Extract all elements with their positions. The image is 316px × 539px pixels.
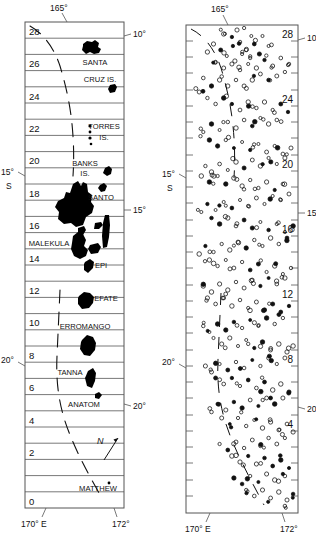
epicenter-marker <box>230 62 234 66</box>
island-label-tanna: TANNA <box>57 368 83 377</box>
epicenter-marker <box>214 102 218 106</box>
epicenter-marker <box>252 321 256 325</box>
epicenter-marker <box>250 124 254 128</box>
epicenter-marker <box>277 242 281 246</box>
epicenter-marker <box>230 35 233 38</box>
epicenter-marker <box>238 384 241 387</box>
epicenter-marker <box>267 436 271 440</box>
epicenter-marker <box>265 472 269 476</box>
right-row-label-8: 8 <box>287 354 293 365</box>
epicenter-marker <box>261 244 264 247</box>
epicenter-marker <box>277 313 281 317</box>
epicenter-marker <box>283 436 286 439</box>
epicenter-marker <box>268 197 273 202</box>
epicenter-marker <box>240 482 244 486</box>
epicenter-marker <box>194 87 198 91</box>
epicenter-marker <box>218 442 221 445</box>
epicenter-marker <box>286 110 289 113</box>
island-label-santo: SANTO <box>88 193 114 202</box>
island-label-anatom: ANATOM <box>68 400 100 409</box>
row-label-6: 6 <box>29 382 34 393</box>
island-torres-4 <box>90 143 93 146</box>
epicenter-marker <box>242 26 245 29</box>
epicenter-marker <box>247 342 250 345</box>
epicenter-marker <box>250 226 254 230</box>
right-row-label-24: 24 <box>282 94 294 105</box>
epicenter-marker <box>211 261 216 266</box>
epicenter-marker <box>271 464 275 468</box>
epicenter-marker <box>215 322 220 327</box>
island-torres-3 <box>88 136 91 139</box>
epicenter-marker <box>261 308 265 312</box>
epicenter-marker <box>242 286 246 290</box>
row-label-8: 8 <box>29 350 34 361</box>
epicenter-marker <box>247 454 250 457</box>
epicenter-marker <box>269 160 273 164</box>
epicenter-marker <box>197 252 202 257</box>
epicenter-marker <box>260 376 263 379</box>
epicenter-marker <box>254 196 258 200</box>
epicenter-marker <box>213 361 217 365</box>
epicenter-marker <box>224 204 227 207</box>
epicenter-marker <box>207 138 211 142</box>
left-axis-right-mid-label: 15° <box>133 205 146 215</box>
epicenter-marker <box>196 208 199 211</box>
epicenter-marker <box>235 28 239 32</box>
epicenter-marker <box>228 423 231 426</box>
epicenter-marker <box>283 356 287 360</box>
epicenter-marker <box>265 54 268 57</box>
epicenter-marker <box>264 316 269 321</box>
epicenter-marker <box>203 260 206 263</box>
island-tinakula <box>108 84 117 93</box>
epicenter-marker <box>257 52 261 56</box>
epicenter-marker <box>275 362 278 365</box>
epicenter-marker <box>268 236 273 241</box>
right-row-label-4: 4 <box>287 419 293 430</box>
epicenter-marker <box>235 382 238 385</box>
epicenter-marker <box>259 462 263 466</box>
right-panel-svg: 165° 170° E 172° 10° 15° 20° 15° S 20° 2… <box>160 0 316 539</box>
epicenter-marker <box>228 267 232 271</box>
epicenter-marker <box>222 200 225 203</box>
epicenter-marker <box>226 368 230 372</box>
row-label-20: 20 <box>29 155 40 166</box>
epicenter-marker <box>212 182 215 185</box>
epicenter-marker <box>231 44 234 47</box>
epicenter-marker <box>244 424 247 427</box>
epicenter-marker <box>244 246 248 250</box>
epicenter-marker <box>218 128 221 131</box>
island-pentecost <box>102 215 110 248</box>
epicenter-marker <box>238 108 242 112</box>
epicenter-marker <box>212 250 215 253</box>
epicenter-marker <box>224 258 227 261</box>
epicenter-marker <box>275 146 280 151</box>
epicenter-marker <box>281 396 285 400</box>
epicenter-marker <box>214 208 217 211</box>
epicenter-marker <box>255 386 259 390</box>
epicenter-marker <box>201 282 205 286</box>
epicenter-marker <box>278 454 282 458</box>
epicenter-marker <box>274 262 278 266</box>
epicenter-marker <box>266 122 270 126</box>
epicenter-marker <box>265 270 268 273</box>
epicenter-marker <box>218 162 222 166</box>
epicenter-marker <box>230 304 234 308</box>
epicenter-marker <box>218 204 221 207</box>
epicenter-marker <box>270 388 275 393</box>
epicenter-marker <box>253 238 256 241</box>
island-label-efate: EFATE <box>94 294 118 303</box>
epicenter-marker <box>206 329 209 332</box>
row-label-4: 4 <box>29 415 34 426</box>
epicenter-marker <box>262 118 266 122</box>
epicenter-marker <box>236 416 239 419</box>
epicenter-marker <box>226 288 230 292</box>
right-row-label-20: 20 <box>282 159 294 170</box>
epicenter-marker <box>287 466 290 469</box>
epicenter-marker <box>262 446 265 449</box>
epicenter-marker <box>258 72 262 76</box>
epicenter-marker <box>251 358 254 361</box>
epicenter-marker <box>240 411 243 414</box>
epicenter-marker <box>216 264 219 267</box>
island-name-labels: SANTA CRUZ IS. TORRES IS. BANKS IS. SANT… <box>29 58 120 493</box>
epicenter-marker <box>232 320 236 324</box>
